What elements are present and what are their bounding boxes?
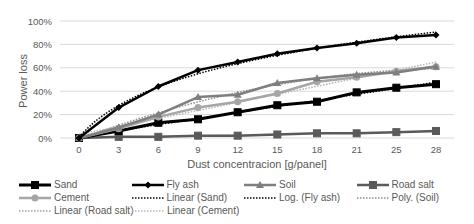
legend-label: Linear (Cement)	[167, 205, 239, 216]
legend-item: Road salt	[356, 179, 469, 190]
y-axis-title: Power loss	[17, 54, 29, 108]
y-tick-label: 60%	[33, 62, 53, 73]
legend-swatch-icon	[18, 206, 52, 216]
legend-swatch-icon	[131, 206, 165, 216]
y-tick-label: 100%	[28, 16, 53, 27]
y-tick-label: 80%	[33, 39, 53, 50]
legend-row: SandFly ashSoilRoad salt	[18, 178, 468, 191]
legend-row: Linear (Road salt)Linear (Cement)	[18, 204, 468, 217]
x-tick-label: 18	[312, 144, 323, 155]
legend-label: Soil	[279, 179, 296, 190]
legend-label: Poly. (Soil)	[392, 192, 440, 203]
legend-item: Sand	[18, 179, 131, 190]
data-series	[75, 32, 440, 142]
legend-item: Linear (Road salt)	[18, 205, 131, 216]
legend-label: Cement	[54, 192, 89, 203]
legend-item: Fly ash	[131, 179, 244, 190]
x-tick-label: 0	[76, 144, 81, 155]
legend-label: Log. (Fly ash)	[279, 192, 340, 203]
x-tick-label: 3	[116, 144, 121, 155]
y-tick-label: 40%	[33, 86, 53, 97]
legend-label: Fly ash	[167, 179, 199, 190]
chart-legend: SandFly ashSoilRoad saltCementLinear (Sa…	[18, 178, 468, 217]
legend-swatch-icon	[356, 180, 390, 190]
legend-item: Linear (Sand)	[131, 192, 244, 203]
legend-swatch-icon	[18, 193, 52, 203]
x-tick-label: 15	[272, 144, 283, 155]
legend-label: Road salt	[392, 179, 434, 190]
x-tick-label: 25	[391, 144, 402, 155]
x-tick-label: 21	[351, 144, 362, 155]
x-tick-label: 12	[232, 144, 243, 155]
legend-label: Linear (Sand)	[167, 192, 228, 203]
x-tick-label: 28	[431, 144, 442, 155]
trendline-log-fly-ash-	[79, 32, 436, 137]
x-axis-ticks: 0369121518212528	[76, 144, 441, 155]
x-axis-title: Dust concentracion [g/panel]	[187, 158, 326, 170]
legend-item: Log. (Fly ash)	[243, 192, 356, 203]
legend-item: Poly. (Soil)	[356, 192, 469, 203]
legend-swatch-icon	[18, 180, 52, 190]
y-tick-label: 20%	[33, 109, 53, 120]
y-tick-label: 0%	[38, 133, 52, 144]
y-axis-ticks: 0%20%40%60%80%100%	[28, 16, 53, 144]
x-tick-label: 6	[156, 144, 161, 155]
legend-swatch-icon	[356, 193, 390, 203]
legend-row: CementLinear (Sand)Log. (Fly ash)Poly. (…	[18, 191, 468, 204]
legend-item: Soil	[243, 179, 356, 190]
legend-label: Sand	[54, 179, 77, 190]
legend-swatch-icon	[131, 193, 165, 203]
legend-swatch-icon	[243, 180, 277, 190]
legend-swatch-icon	[131, 180, 165, 190]
legend-swatch-icon	[243, 193, 277, 203]
x-tick-label: 9	[195, 144, 200, 155]
legend-label: Linear (Road salt)	[54, 205, 133, 216]
legend-item: Linear (Cement)	[131, 205, 244, 216]
legend-item: Cement	[18, 192, 131, 203]
